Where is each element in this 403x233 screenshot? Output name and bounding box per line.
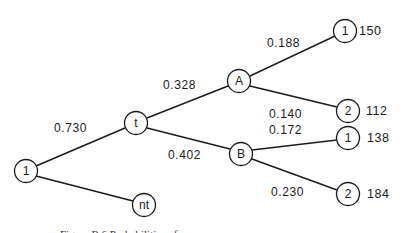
node-A2-label: 2 xyxy=(345,104,352,118)
node-B1-value: 138 xyxy=(367,131,389,145)
edge-t-B xyxy=(147,128,230,149)
node-B2-value: 184 xyxy=(367,187,389,201)
prob-root-t: 0.730 xyxy=(54,121,87,135)
node-B2: 2 184 xyxy=(337,183,390,206)
edge-B-B1 xyxy=(252,140,337,150)
edge-A-A2 xyxy=(250,86,337,107)
node-nt: nt xyxy=(133,194,156,217)
prob-A-A1: 0.188 xyxy=(267,36,300,50)
prob-t-B: 0.402 xyxy=(168,148,201,162)
node-A1: 1 150 xyxy=(334,20,382,43)
node-root-label: 1 xyxy=(23,164,30,178)
node-A2-value: 112 xyxy=(366,104,387,118)
node-root: 1 xyxy=(15,160,38,183)
figure-caption: Figure B.6 Probabilities of ... xyxy=(60,228,189,233)
prob-B-B1: 0.172 xyxy=(269,123,302,137)
node-t: t xyxy=(125,112,148,135)
node-B1: 1 138 xyxy=(337,127,390,150)
node-A1-value: 150 xyxy=(359,24,381,38)
probability-labels: 0.730 0.328 0.402 0.188 0.140 0.172 0.23… xyxy=(54,36,304,199)
node-B: B xyxy=(230,143,253,166)
node-A1-label: 1 xyxy=(342,24,349,38)
prob-B-B2: 0.230 xyxy=(271,185,304,199)
node-B-label: B xyxy=(237,147,245,161)
probability-tree-diagram: 0.730 0.328 0.402 0.188 0.140 0.172 0.23… xyxy=(0,0,403,233)
node-nt-label: nt xyxy=(139,198,150,212)
node-B2-label: 2 xyxy=(345,187,352,201)
node-A2: 2 112 xyxy=(337,100,388,123)
prob-t-A: 0.328 xyxy=(163,78,196,92)
node-B1-label: 1 xyxy=(345,131,352,145)
prob-A-A2: 0.140 xyxy=(269,107,302,121)
node-A: A xyxy=(228,70,251,93)
edge-root-nt xyxy=(36,176,133,201)
node-A-label: A xyxy=(235,74,243,88)
